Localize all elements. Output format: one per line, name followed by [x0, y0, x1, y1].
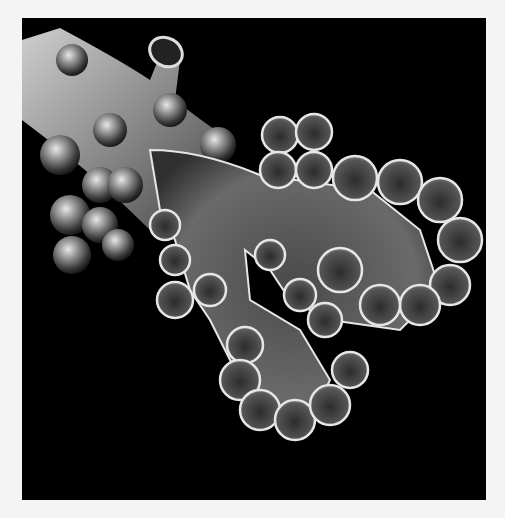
illustration-frame	[22, 18, 486, 500]
bronchiole-opening	[144, 31, 187, 72]
alveoli-illustration	[22, 18, 486, 500]
